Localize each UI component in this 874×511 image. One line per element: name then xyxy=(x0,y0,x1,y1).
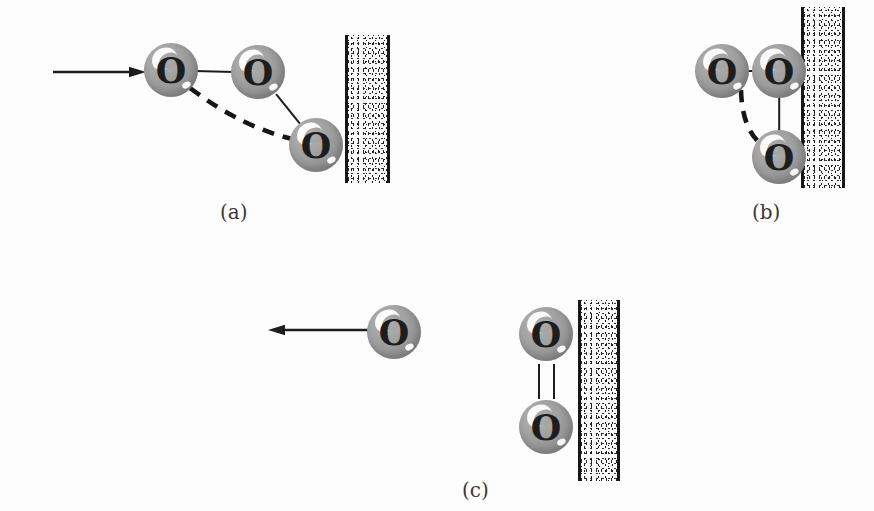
atom-o2: O xyxy=(231,45,285,99)
panel-caption-c: (c) xyxy=(462,478,489,502)
surface-wall xyxy=(801,7,845,188)
bond-o1-o2 xyxy=(195,70,234,73)
surface-wall xyxy=(345,35,390,183)
panel-caption-a: (a) xyxy=(220,200,248,224)
surface-wall xyxy=(578,300,620,481)
atom-label: O xyxy=(231,45,285,99)
atom-o3: O xyxy=(289,118,343,172)
outgoing-velocity-arrow xyxy=(268,325,374,335)
atom-o3: O xyxy=(752,130,806,184)
atom-o2: O xyxy=(752,44,806,98)
atom-label: O xyxy=(752,44,806,98)
double-bond-o2-stroke-1 xyxy=(538,364,540,399)
panel-caption-b: (b) xyxy=(752,200,780,224)
double-bond-o2-stroke-2 xyxy=(553,364,555,399)
bond-o2-o3 xyxy=(778,97,780,131)
atom-label: O xyxy=(144,43,198,97)
atom-o1: O xyxy=(695,44,749,98)
atom-label: O xyxy=(695,44,749,98)
atom-label: O xyxy=(367,305,421,359)
atom-label: O xyxy=(289,118,343,172)
atom-label: O xyxy=(519,307,573,361)
atom-label: O xyxy=(752,130,806,184)
atom-o-escaping: O xyxy=(367,305,421,359)
atom-o2-upper: O xyxy=(519,307,573,361)
figure-canvas: OOO(a)OOO(b)OOO(c) xyxy=(0,0,874,511)
atom-o2-lower: O xyxy=(519,400,573,454)
incoming-velocity-arrow xyxy=(53,67,146,77)
atom-label: O xyxy=(519,400,573,454)
atom-o1: O xyxy=(144,43,198,97)
